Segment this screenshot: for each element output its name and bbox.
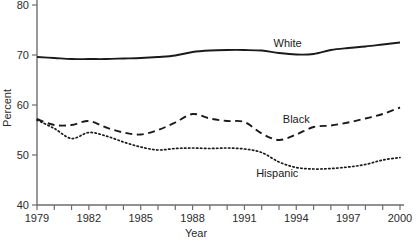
x-tick-label-1988: 1988 xyxy=(180,212,204,224)
y-axis: 4050607080 xyxy=(17,0,37,211)
x-tick-label-1982: 1982 xyxy=(77,212,101,224)
y-tick-label-80: 80 xyxy=(17,0,29,11)
series-path-hispanic xyxy=(37,120,400,169)
plot-series-group xyxy=(37,43,400,170)
x-tick-group: 19791982198519881991199419972000 xyxy=(25,205,412,224)
y-tick-label-70: 70 xyxy=(17,49,29,61)
x-axis-title: Year xyxy=(185,227,208,239)
y-tick-label-50: 50 xyxy=(17,149,29,161)
series-label-white: White xyxy=(274,37,302,49)
y-tick-label-60: 60 xyxy=(17,99,29,111)
x-tick-label-1985: 1985 xyxy=(128,212,152,224)
chart-canvas: 4050607080 19791982198519881991199419972… xyxy=(0,0,420,240)
series-label-hispanic: Hispanic xyxy=(256,167,299,179)
x-tick-label-2000: 2000 xyxy=(388,212,412,224)
x-tick-label-1979: 1979 xyxy=(25,212,49,224)
series-path-white xyxy=(37,43,400,60)
series-path-black xyxy=(37,108,400,141)
line-chart: 4050607080 19791982198519881991199419972… xyxy=(0,0,420,240)
x-axis: 19791982198519881991199419972000 xyxy=(25,205,412,224)
x-tick-label-1994: 1994 xyxy=(284,212,308,224)
series-label-black: Black xyxy=(283,113,310,125)
x-tick-label-1997: 1997 xyxy=(336,212,360,224)
y-tick-label-40: 40 xyxy=(17,199,29,211)
x-tick-label-1991: 1991 xyxy=(232,212,256,224)
y-tick-group: 4050607080 xyxy=(17,0,37,211)
y-axis-title: Percent xyxy=(1,89,13,127)
